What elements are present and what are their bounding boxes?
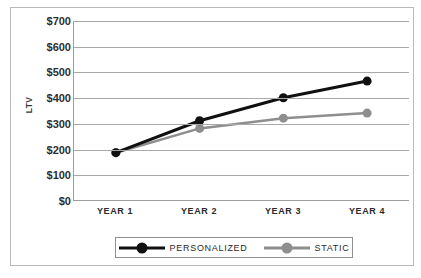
gridline [74,98,409,99]
x-axis-tick: YEAR 1 [73,206,157,216]
x-axis-tick: YEAR 3 [241,206,325,216]
legend-swatch-personalized [119,242,165,254]
gridline [74,175,409,176]
gridline [74,124,409,125]
legend-marker-personalized [136,242,147,253]
legend-marker-static [281,242,292,253]
y-axis-tick: $100 [25,170,71,181]
data-point-static-1 [195,124,204,133]
data-point-static-3 [363,109,372,118]
gridline [74,21,409,22]
x-axis-tick-labels: YEAR 1YEAR 2YEAR 3YEAR 4 [73,206,409,222]
legend-entry-static: STATIC [264,242,350,254]
y-axis-tick: $300 [25,118,71,129]
figure-frame: LTV $700$600$500$400$300$200$100$0 YEAR … [10,7,414,266]
chart-area: LTV $700$600$500$400$300$200$100$0 YEAR … [11,8,415,267]
y-axis-tick: $600 [25,41,71,52]
legend-label-static: STATIC [315,243,350,253]
x-axis-tick: YEAR 4 [325,206,409,216]
gridline [74,150,409,151]
plot-area [73,21,409,201]
y-axis-tick: $200 [25,144,71,155]
y-axis-tick: $500 [25,67,71,78]
chart-legend: PERSONALIZEDSTATIC [115,237,353,258]
y-axis-tick-labels: $700$600$500$400$300$200$100$0 [25,21,71,201]
plot-svg [74,21,409,200]
y-axis-tick: $400 [25,93,71,104]
legend-entry-personalized: PERSONALIZED [119,242,248,254]
gridline [74,47,409,48]
y-axis-tick: $0 [25,196,71,207]
data-point-static-2 [279,114,288,123]
gridline [74,72,409,73]
legend-swatch-static [264,242,310,254]
x-axis-tick: YEAR 2 [157,206,241,216]
y-axis-tick: $700 [25,16,71,27]
data-point-personalized-3 [363,77,372,86]
legend-label-personalized: PERSONALIZED [170,243,248,253]
series-line-static [116,113,367,153]
